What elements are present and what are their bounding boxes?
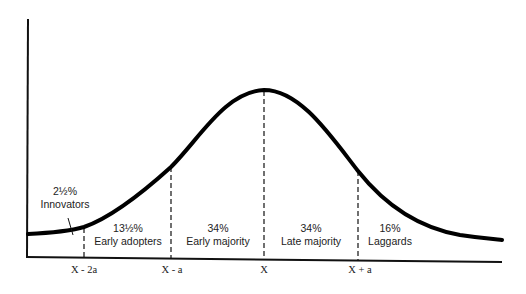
- late-majority-label: 34% Late majority: [268, 222, 354, 248]
- laggards-text: Laggards: [364, 235, 416, 248]
- early-adopters-text: Early adopters: [88, 235, 168, 248]
- tick-x-minus-a: X - a: [162, 264, 183, 275]
- early-majority-percent: 34%: [176, 222, 260, 235]
- early-majority-label: 34% Early majority: [176, 222, 260, 248]
- tick-x-plus-a: X + a: [348, 264, 371, 275]
- innovators-percent: 2½%: [37, 185, 93, 198]
- early-adopters-percent: 13½%: [88, 222, 168, 235]
- innovators-text: Innovators: [37, 198, 93, 211]
- diagram-canvas: [0, 0, 526, 294]
- late-majority-text: Late majority: [268, 235, 354, 248]
- early-adopters-label: 13½% Early adopters: [88, 222, 168, 248]
- laggards-label: 16% Laggards: [364, 222, 416, 248]
- bell-curve: [28, 90, 502, 240]
- tick-x-minus-2a: X - 2a: [71, 264, 97, 275]
- innovators-leader-line: [68, 218, 73, 235]
- tick-x-mean: X: [260, 264, 268, 275]
- innovators-label: 2½% Innovators: [37, 185, 93, 211]
- y-axis: [27, 19, 28, 258]
- laggards-percent: 16%: [364, 222, 416, 235]
- early-majority-text: Early majority: [176, 235, 260, 248]
- late-majority-percent: 34%: [268, 222, 354, 235]
